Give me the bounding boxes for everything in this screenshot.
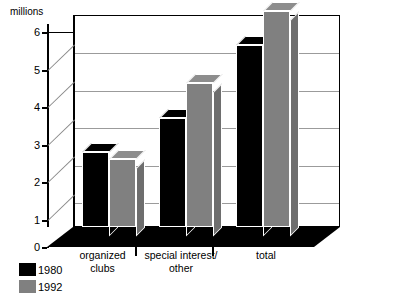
bar-1980-total [236, 36, 263, 227]
y-connector-5 [48, 44, 75, 70]
y-tick-mark-5 [42, 70, 47, 72]
bar-side-face [136, 159, 145, 236]
y-tick-mark-2 [42, 182, 47, 184]
y-tick-label-3: 3 [24, 139, 40, 151]
y-axis-title: millions [10, 6, 43, 17]
chart-legend: 1980 1992 [19, 262, 62, 296]
legend-item-1980: 1980 [19, 262, 62, 277]
category-label-line-1: total [221, 249, 311, 262]
bar-side-face [290, 11, 299, 236]
bar-1992-organized-clubs [109, 150, 136, 227]
y-tick-label-2: 2 [24, 176, 40, 188]
y-tick-mark-4 [42, 107, 47, 109]
y-tick-mark-0 [42, 247, 47, 249]
chart-floor-right-bevel [314, 227, 340, 247]
y-connector-4 [48, 81, 75, 107]
bar-1980-organized-clubs [82, 143, 109, 227]
bar-front-face [236, 45, 263, 227]
bar-front-face [109, 159, 136, 227]
bar-top-face [263, 2, 299, 11]
y-connector-6 [48, 32, 74, 33]
category-label-line-2: other [131, 262, 231, 275]
bar-front-face [82, 152, 109, 227]
category-label-special-interest-other: special interest/ other [131, 249, 231, 275]
bar-1980-special-interest-other [159, 109, 186, 227]
bar-front-face [186, 83, 213, 227]
plot-left-wall-edge [73, 15, 75, 247]
category-label-line-1: special interest/ [131, 249, 231, 262]
chart-container: millions 6 5 4 3 2 1 0 [0, 0, 419, 304]
legend-swatch-1980 [19, 263, 36, 276]
y-tick-mark-6 [42, 32, 47, 34]
legend-swatch-1992 [19, 280, 36, 293]
legend-label-1980: 1980 [38, 264, 62, 276]
y-connector-2 [48, 156, 75, 182]
y-connector-1 [48, 194, 75, 220]
y-connector-3 [48, 119, 75, 145]
bar-front-face [263, 11, 290, 227]
y-tick-label-5: 5 [24, 64, 40, 76]
legend-item-1992: 1992 [19, 279, 62, 294]
y-tick-label-6: 6 [24, 26, 40, 38]
chart-floor-left-bevel [47, 227, 73, 247]
bar-1992-total [263, 2, 290, 227]
category-label-total: total [221, 249, 311, 262]
y-tick-label-0: 0 [24, 241, 40, 253]
y-tick-mark-1 [42, 220, 47, 222]
y-axis-line [47, 24, 49, 248]
y-tick-label-4: 4 [24, 101, 40, 113]
bar-1992-special-interest-other [186, 74, 213, 227]
legend-label-1992: 1992 [38, 281, 62, 293]
y-tick-label-1: 1 [24, 214, 40, 226]
bar-side-face [213, 83, 222, 236]
bar-front-face [159, 118, 186, 227]
gridline-5 [74, 53, 339, 54]
y-tick-mark-3 [42, 145, 47, 147]
